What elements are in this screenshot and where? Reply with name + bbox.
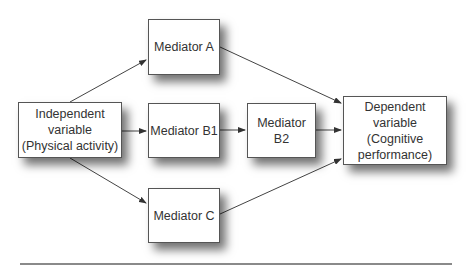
- node-mediator-a: Mediator A: [148, 19, 220, 75]
- node-independent-variable: Independent variable (Physical activity): [18, 102, 122, 158]
- node-text-line: variable: [373, 115, 417, 131]
- edge-independent-mediator-c: [70, 158, 146, 203]
- node-mediator-c: Mediator C: [148, 188, 220, 243]
- node-text-line: Dependent: [364, 99, 425, 115]
- node-label: Mediator A: [154, 39, 214, 55]
- node-text-line: variable: [48, 122, 92, 138]
- bottom-rule-divider: [20, 263, 452, 265]
- node-text-line: (Physical activity): [22, 138, 119, 154]
- node-text-line: performance): [358, 147, 432, 163]
- edge-mediator-c-dependent: [220, 159, 341, 214]
- node-text-line: (Cognitive: [367, 131, 423, 147]
- node-dependent-variable: Dependent variable (Cognitive performanc…: [343, 96, 447, 165]
- node-label: Mediator B2: [248, 115, 315, 147]
- node-mediator-b2: Mediator B2: [247, 103, 316, 158]
- node-mediator-b1: Mediator B1: [148, 103, 220, 158]
- node-label: Mediator B1: [150, 123, 217, 139]
- edge-independent-mediator-a: [70, 60, 146, 102]
- edge-mediator-a-dependent: [220, 47, 341, 103]
- node-label: Mediator C: [153, 208, 214, 224]
- node-text-line: Independent: [35, 106, 105, 122]
